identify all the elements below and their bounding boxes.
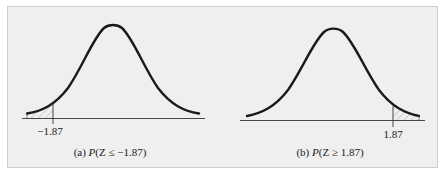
normal-distribution-figure xyxy=(0,0,445,177)
chart-b xyxy=(240,29,425,127)
caption-a-prefix: (a) xyxy=(74,146,89,158)
caption-a-p: P xyxy=(89,146,96,158)
caption-b-prefix: (b) xyxy=(296,146,312,158)
caption-a-expr: (Z ≤ −1.87) xyxy=(95,146,146,158)
tick-label-b: 1.87 xyxy=(383,128,402,140)
caption-b: (b) P(Z ≥ 1.87) xyxy=(296,146,363,158)
tick-label-a: −1.87 xyxy=(37,125,62,137)
caption-a: (a) P(Z ≤ −1.87) xyxy=(74,146,147,158)
caption-b-expr: (Z ≥ 1.87) xyxy=(319,146,364,158)
bell-curve-a xyxy=(27,25,199,114)
bell-curve-b xyxy=(247,29,419,116)
chart-a xyxy=(22,25,205,124)
